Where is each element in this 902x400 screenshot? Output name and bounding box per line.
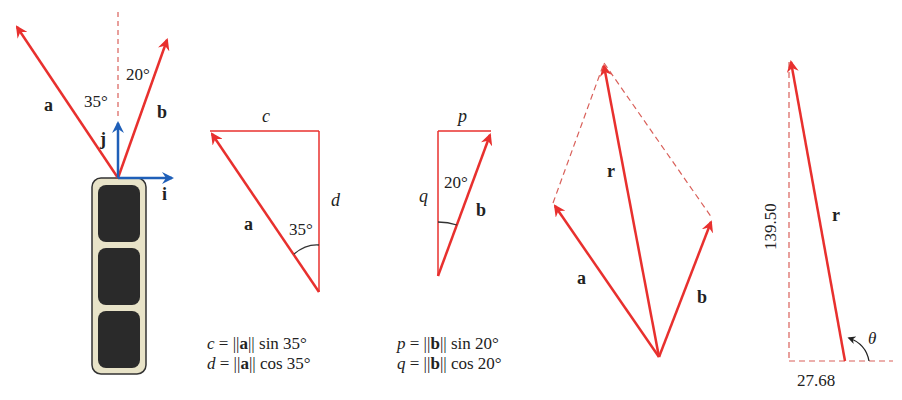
vector-b-label: b — [157, 102, 167, 122]
dashed-parallel-a — [604, 63, 712, 218]
panel-3-vector-b-components: p q b 20° — [419, 106, 491, 276]
angle-theta-label: θ — [868, 329, 876, 348]
resultant-r-label: r — [832, 205, 840, 225]
resultant-r-arrow — [604, 66, 659, 357]
vector-a-arrow — [212, 134, 319, 292]
panel-object-icon — [92, 178, 146, 374]
vector-b-label: b — [697, 287, 707, 307]
panel-2-vector-a-components: c d a 35° — [210, 106, 341, 292]
panel-4-parallelogram-sum: a b r — [553, 63, 712, 357]
dashed-parallel-b — [553, 63, 604, 203]
vector-a-label: a — [244, 214, 253, 234]
side-d-label: d — [331, 190, 341, 210]
vector-a-label: a — [577, 268, 586, 288]
unit-j-label: j — [99, 129, 106, 149]
angle-label: 20° — [444, 173, 468, 192]
angle-theta-arc — [849, 338, 869, 361]
angle-a-label: 35° — [84, 92, 108, 111]
vector-b-label: b — [476, 200, 486, 220]
side-p-label: p — [456, 106, 467, 126]
panel-1-object-with-vectors: a b 35° 20° j i — [17, 12, 172, 374]
resultant-r-label: r — [607, 161, 615, 181]
equation-q: q = ||b|| cos 20° — [397, 354, 502, 374]
equation-p: p = ||b|| sin 20° — [397, 334, 499, 354]
unit-i-label: i — [162, 184, 167, 204]
panel-5-resultant-components: r θ 27.68 139.50 — [761, 62, 893, 390]
angle-arc — [294, 245, 319, 254]
angle-b-label: 20° — [126, 65, 150, 84]
equation-d: d = ||a|| cos 35° — [207, 354, 311, 374]
vector-a-arrow — [555, 206, 659, 357]
horizontal-component-value: 27.68 — [797, 371, 835, 390]
side-q-label: q — [419, 186, 428, 206]
vertical-component-value: 139.50 — [761, 203, 780, 250]
vector-a-label: a — [44, 95, 53, 115]
side-c-label: c — [262, 106, 270, 126]
angle-label: 35° — [289, 220, 313, 239]
angle-arc — [438, 222, 457, 225]
equation-c: c = ||a|| sin 35° — [207, 334, 307, 354]
